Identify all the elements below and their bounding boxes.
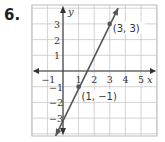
svg-text:2: 2 (91, 74, 97, 85)
coordinate-graph: yx −112345321−1−2−3 (3, 3)(1, −1) (0, 0, 165, 142)
svg-text:−2: −2 (49, 97, 63, 108)
svg-text:y: y (67, 6, 74, 17)
svg-text:2: 2 (54, 35, 60, 46)
svg-text:−3: −3 (49, 113, 63, 124)
point-annotations: (3, 3)(1, −1) (81, 22, 145, 102)
svg-text:4: 4 (122, 74, 128, 85)
svg-text:1: 1 (54, 50, 60, 61)
svg-text:−1: −1 (49, 82, 63, 93)
svg-text:(1, −1): (1, −1) (82, 91, 117, 102)
plotted-line (56, 8, 119, 136)
svg-text:(3, 3): (3, 3) (113, 23, 140, 34)
svg-text:3: 3 (107, 74, 113, 85)
svg-text:3: 3 (54, 19, 60, 30)
svg-text:x: x (147, 74, 153, 85)
svg-text:5: 5 (138, 74, 144, 85)
